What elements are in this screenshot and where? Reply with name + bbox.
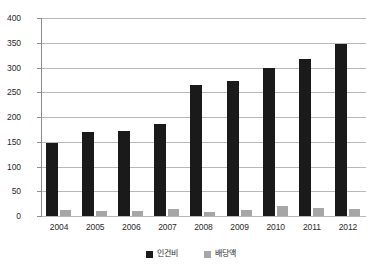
x-tick-label: 2012	[330, 222, 366, 232]
bar-primary	[154, 124, 166, 216]
bar-chart: 050100150200250300350400 200420052006200…	[0, 0, 382, 272]
x-tick-label: 2007	[149, 222, 185, 232]
x-tick-label: 2005	[77, 222, 113, 232]
bar-primary	[299, 59, 311, 216]
x-tick-label: 2009	[222, 222, 258, 232]
bar-group	[113, 18, 149, 216]
x-tick-label: 2008	[185, 222, 221, 232]
y-tick-label: 150	[0, 137, 21, 147]
legend-label: 인건비	[157, 250, 178, 258]
y-tick-label: 250	[0, 87, 21, 97]
bar-secondary	[60, 210, 71, 216]
y-tick-label: 400	[0, 13, 21, 23]
bar-secondary	[96, 211, 107, 216]
plot-area	[41, 18, 366, 216]
bar-group	[185, 18, 221, 216]
bar-primary	[46, 143, 58, 216]
bar-primary	[190, 85, 202, 216]
y-tick-label: 200	[0, 112, 21, 122]
legend-swatch-icon	[146, 251, 153, 258]
x-tick-label: 2010	[258, 222, 294, 232]
x-tick-label: 2004	[41, 222, 77, 232]
legend-item[interactable]: 배당액	[204, 250, 236, 258]
bar-group	[149, 18, 185, 216]
chart-legend: 인건비배당액	[0, 250, 382, 258]
bar-secondary	[204, 212, 215, 216]
bar-primary	[118, 131, 130, 216]
gridline	[41, 216, 366, 217]
bar-group	[222, 18, 258, 216]
x-tick-label: 2006	[113, 222, 149, 232]
bar-primary	[335, 44, 347, 216]
bar-group	[294, 18, 330, 216]
bar-secondary	[277, 206, 288, 216]
y-tick-label: 300	[0, 63, 21, 73]
bar-group	[330, 18, 366, 216]
bar-primary	[263, 68, 275, 216]
bar-secondary	[168, 209, 179, 216]
bar-group	[41, 18, 77, 216]
bar-secondary	[132, 211, 143, 216]
bar-primary	[227, 81, 239, 216]
x-tick-label: 2011	[294, 222, 330, 232]
bar-secondary	[241, 210, 252, 216]
y-tick-label: 50	[0, 186, 21, 196]
legend-label: 배당액	[215, 250, 236, 258]
bar-secondary	[313, 208, 324, 216]
legend-swatch-icon	[204, 251, 211, 258]
y-tick-label: 0	[0, 211, 21, 221]
bar-primary	[82, 132, 94, 216]
legend-item[interactable]: 인건비	[146, 250, 178, 258]
y-tick-label: 350	[0, 38, 21, 48]
bar-secondary	[349, 209, 360, 216]
bar-group	[258, 18, 294, 216]
y-tick-label: 100	[0, 162, 21, 172]
bar-group	[77, 18, 113, 216]
